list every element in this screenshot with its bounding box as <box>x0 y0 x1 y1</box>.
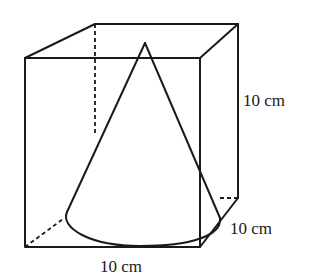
width-label: 10 cm <box>100 257 142 276</box>
cube-front-face <box>25 58 200 247</box>
depth-label: 10 cm <box>230 219 272 238</box>
cone-base-arc <box>66 212 220 246</box>
back-left-bottom-edge <box>25 219 63 247</box>
cube-visible-edges <box>25 24 238 247</box>
top-right-edge <box>200 24 238 58</box>
cone-right-slant <box>145 43 220 218</box>
cone-left-slant <box>67 43 145 212</box>
cone <box>66 43 220 246</box>
cone-in-cube-diagram: 10 cm 10 cm 10 cm <box>0 0 313 278</box>
top-left-edge <box>25 24 95 58</box>
height-label: 10 cm <box>243 91 285 110</box>
